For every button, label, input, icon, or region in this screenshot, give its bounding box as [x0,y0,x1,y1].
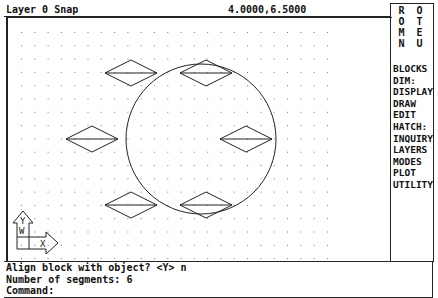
grid-dot [194,85,195,86]
grid-dot [194,232,195,233]
grid-dot [61,32,62,33]
grid-dot [207,138,208,139]
menu-item-hatch[interactable]: HATCH: [391,121,433,133]
grid-dot [327,125,328,126]
grid-dot [300,152,301,153]
grid-dot [88,99,89,100]
grid-dot [274,99,275,100]
grid-dot [114,165,115,166]
grid-dot [274,72,275,73]
menu-title-line1: R O O T [391,5,433,27]
grid-dot [61,218,62,219]
grid-dot [327,32,328,33]
menu-item-plot[interactable]: PLOT [391,167,433,179]
grid-dot [234,125,235,126]
grid-dot [74,112,75,113]
menu-item-inquiry[interactable]: INQUIRY [391,133,433,145]
menu-item-display[interactable]: DISPLAY [391,86,433,98]
grid-dot [260,152,261,153]
grid-dot [314,138,315,139]
grid-dot [260,112,261,113]
grid-dot [34,192,35,193]
grid-dot [274,138,275,139]
grid-dot [48,112,49,113]
grid-dot [327,138,328,139]
grid-dot [234,152,235,153]
grid-dot [207,245,208,246]
grid-dot [314,245,315,246]
grid-dot [127,165,128,166]
grid-dot [247,112,248,113]
grid-dot [34,125,35,126]
grid-dot [88,218,89,219]
grid-dot [221,32,222,33]
command-area[interactable]: Align block with object? <Y> n Number of… [4,261,433,298]
grid-dot [221,192,222,193]
grid-dot [207,165,208,166]
grid-dot [181,32,182,33]
grid-dot [141,178,142,179]
grid-dot [327,218,328,219]
grid-dot [21,245,22,246]
ucs-icon: YWX [13,211,58,254]
command-prompt[interactable]: Command: [4,285,432,297]
grid-dot [247,232,248,233]
grid-dot [21,152,22,153]
grid-dot [141,258,142,259]
grid-dot [101,232,102,233]
menu-title-line2: M E N U [391,27,433,49]
grid-dot [234,178,235,179]
grid-dot [327,99,328,100]
grid-dot [114,99,115,100]
grid-dot [34,205,35,206]
grid-dot [234,232,235,233]
grid-dot [327,72,328,73]
grid-dot [287,125,288,126]
grid-dot [327,258,328,259]
drawing-canvas[interactable]: YWX [2,1,392,263]
grid-dot [181,59,182,60]
grid-dot [141,112,142,113]
grid-dot [101,125,102,126]
grid-dot [234,245,235,246]
grid-dot [300,138,301,139]
grid-dot [34,59,35,60]
grid-dot [260,232,261,233]
grid-dot [300,245,301,246]
menu-item-draw[interactable]: DRAW [391,98,433,110]
grid-dot [327,232,328,233]
grid-dot [181,125,182,126]
grid-dot [300,45,301,46]
grid-dot [141,59,142,60]
grid-dot [234,32,235,33]
menu-item-modes[interactable]: MODES [391,156,433,168]
grid-dot [34,85,35,86]
grid-dot [260,218,261,219]
grid-dot [154,218,155,219]
grid-dot [314,72,315,73]
menu-item-utility[interactable]: UTILITY [391,179,433,191]
grid-dot [48,32,49,33]
grid-dot [61,85,62,86]
grid-dot [194,165,195,166]
grid-dot [181,152,182,153]
menu-item-dim[interactable]: DIM: [391,75,433,87]
grid-dot [34,165,35,166]
menu-title[interactable]: R O O T M E N U [391,5,433,49]
grid-dot [287,72,288,73]
grid-dot [247,178,248,179]
grid-dot [61,59,62,60]
grid-dot [260,72,261,73]
grid-dot [274,165,275,166]
menu-item-edit[interactable]: EDIT [391,109,433,121]
grid-dot [221,112,222,113]
grid-dot [207,59,208,60]
grid-dot [154,245,155,246]
menu-item-layers[interactable]: LAYERS [391,144,433,156]
grid-dot [207,152,208,153]
grid-dot [207,99,208,100]
grid-dot [207,258,208,259]
menu-item-blocks[interactable]: BLOCKS [391,63,433,75]
grid-dot [88,205,89,206]
drawing-area[interactable]: YWX [6,17,392,262]
